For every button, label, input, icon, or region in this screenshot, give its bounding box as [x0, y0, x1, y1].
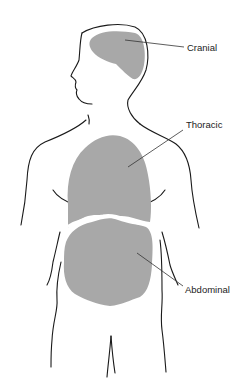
- abdominal-cavity: [64, 218, 153, 306]
- abdominal-label: Abdominal: [185, 284, 230, 295]
- face-profile: [71, 33, 92, 104]
- body-cavities-diagram: Cranial Thoracic Abdominal: [0, 0, 244, 388]
- inner-leg-line: [107, 336, 111, 377]
- cranial-label: Cranial: [187, 42, 217, 53]
- right-waist: [160, 240, 166, 372]
- thoracic-label: Thoracic: [186, 119, 223, 130]
- left-waist: [51, 262, 61, 367]
- cranial-cavity: [89, 31, 144, 79]
- inner-leg-line-2: [111, 336, 115, 373]
- neck-front: [88, 115, 89, 124]
